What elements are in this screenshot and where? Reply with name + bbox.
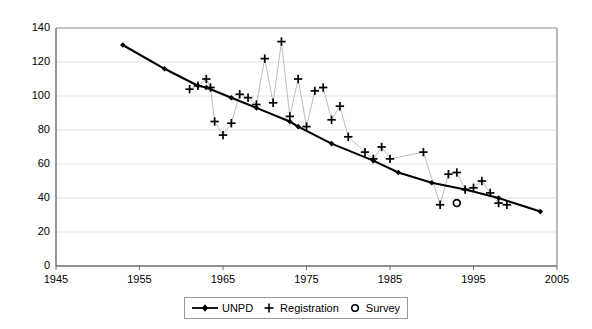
legend-label-registration: Registration [280, 303, 339, 314]
unpd-data-point [462, 187, 468, 193]
gridlines-group [56, 62, 557, 270]
registration-data-point [377, 143, 385, 151]
unpd-legend-icon [192, 302, 218, 314]
registration-data-point [269, 99, 277, 107]
unpd-trend-line [123, 45, 541, 212]
y-axis-tick-label: 20 [12, 226, 50, 237]
x-axis-tick-label: 1965 [197, 274, 249, 285]
registration-data-point [185, 85, 193, 93]
survey-legend-icon [348, 302, 362, 314]
registration-data-point [336, 102, 344, 110]
unpd-markers-group [120, 42, 543, 214]
y-axis-tick-label: 100 [12, 90, 50, 101]
registration-data-point [210, 117, 218, 125]
registration-data-point [453, 168, 461, 176]
chart-legend: UNPD Registration Survey [184, 297, 408, 319]
y-axis-tick-label: 60 [12, 158, 50, 169]
registration-data-point [236, 90, 244, 98]
legend-label-survey: Survey [366, 303, 400, 314]
x-axis-tick-label: 1975 [281, 274, 333, 285]
registration-data-point [219, 131, 227, 139]
registration-polyline [190, 42, 507, 205]
legend-entry-unpd[interactable]: UNPD [192, 302, 253, 314]
x-axis-tick-label: 1945 [30, 274, 82, 285]
y-axis-tick-label: 40 [12, 192, 50, 203]
registration-data-point [277, 37, 285, 45]
survey-data-point [453, 200, 460, 207]
x-axis-tick-label: 1985 [364, 274, 416, 285]
legend-entry-survey[interactable]: Survey [348, 302, 400, 314]
y-axis-tick-label: 140 [12, 22, 50, 33]
registration-data-point [444, 170, 452, 178]
y-axis-tick-label: 0 [12, 260, 50, 271]
registration-legend-icon [262, 302, 276, 314]
registration-data-point [419, 148, 427, 156]
x-axis-tick-label: 1955 [114, 274, 166, 285]
x-axis-tick-label: 2005 [531, 274, 583, 285]
legend-label-unpd: UNPD [222, 303, 253, 314]
registration-data-point [327, 116, 335, 124]
unpd-data-point [538, 209, 544, 215]
registration-connector-line [190, 42, 507, 205]
x-axis-tick-label: 1995 [448, 274, 500, 285]
unpd-data-point [204, 85, 210, 91]
registration-data-point [311, 87, 319, 95]
survey-markers-group [453, 200, 460, 207]
registration-data-point [436, 201, 444, 209]
unpd-data-point [496, 195, 502, 201]
registration-data-point [294, 75, 302, 83]
unpd-data-point [254, 105, 260, 111]
registration-data-point [386, 155, 394, 163]
y-axis-tick-label: 120 [12, 56, 50, 67]
unpd-polyline [123, 45, 541, 212]
chart-container: 140120100806040200 194519551965197519851… [0, 0, 592, 329]
registration-data-point [319, 83, 327, 91]
registration-data-point [227, 119, 235, 127]
axis-lines-group [56, 28, 557, 266]
y-axis-tick-label: 80 [12, 124, 50, 135]
legend-entry-registration[interactable]: Registration [262, 302, 339, 314]
